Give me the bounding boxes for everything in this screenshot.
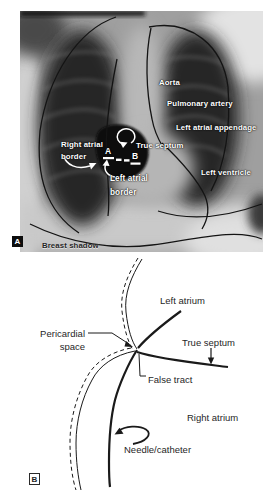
true-septum-xray-label: True septum bbox=[136, 140, 183, 152]
left-atrium-border-line bbox=[138, 311, 181, 348]
marker-b-underline bbox=[131, 163, 141, 165]
pericardium-dashed-upper bbox=[122, 258, 138, 350]
pulmonary-artery-label: Pulmonary artery bbox=[167, 98, 233, 110]
pericardium-dashed-lower bbox=[70, 348, 131, 490]
right-atrium-border-line bbox=[109, 350, 137, 487]
marker-a-label: A bbox=[105, 147, 111, 156]
left-ventricle-label: Left ventricle bbox=[201, 167, 251, 179]
marker-b-label: B bbox=[132, 152, 138, 161]
right-atrium-label: Right atrium bbox=[187, 411, 238, 424]
left-atrium-label: Left atrium bbox=[160, 294, 205, 307]
right-atrial-border-line2: border bbox=[61, 151, 103, 163]
aorta-label: Aorta bbox=[159, 77, 180, 89]
pericardium-solid-upper bbox=[126, 259, 142, 349]
panel-b-tag: B bbox=[29, 473, 40, 485]
true-septum-diagram-label: True septum bbox=[182, 336, 235, 349]
false-tract-leader bbox=[139, 354, 146, 376]
xray-photo bbox=[3, 0, 273, 270]
left-atrial-border-label: Left atrial border bbox=[110, 172, 148, 199]
pericardial-space-leader bbox=[88, 333, 129, 344]
true-septum-line bbox=[137, 352, 228, 367]
left-atrial-appendage-label: Left atrial appendage bbox=[176, 122, 257, 134]
left-atrial-border-line2: border bbox=[110, 186, 148, 200]
right-atrial-border-label: Right atrial border bbox=[61, 139, 103, 162]
pericardial-space-line2: space bbox=[30, 340, 85, 353]
pericardial-space-label: Pericardial space bbox=[30, 327, 85, 353]
needle-catheter-label: Needle/catheter bbox=[124, 443, 191, 456]
true-septum-pointer-arrowhead bbox=[208, 358, 214, 365]
right-atrial-border-line1: Right atrial bbox=[61, 139, 103, 151]
panel-a-tag: A bbox=[12, 236, 23, 247]
needle-catheter-arrow bbox=[119, 427, 149, 444]
left-atrial-border-line1: Left atrial bbox=[110, 172, 148, 186]
breast-shadow-label: Breast shadow bbox=[42, 240, 99, 252]
marker-a-underline bbox=[103, 157, 114, 159]
pericardial-space-line1: Pericardial bbox=[30, 327, 85, 340]
false-tract-label: False tract bbox=[148, 373, 192, 386]
medical-figure: Aorta Pulmonary artery Left atrial appen… bbox=[0, 0, 273, 492]
